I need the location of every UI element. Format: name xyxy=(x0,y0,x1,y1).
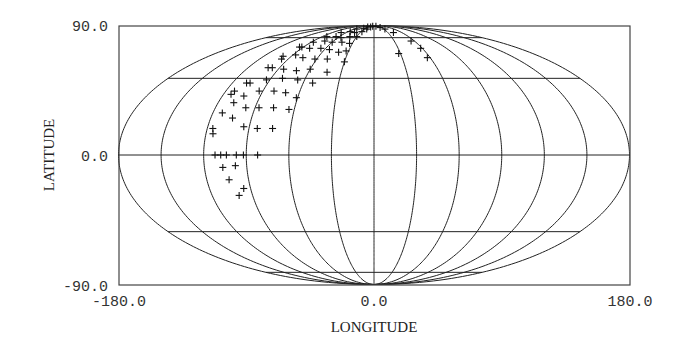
plus-marker xyxy=(338,39,345,46)
plus-marker xyxy=(232,162,239,169)
plus-marker xyxy=(209,130,216,137)
plus-marker xyxy=(306,45,313,52)
plus-marker xyxy=(254,152,261,159)
plus-marker xyxy=(240,185,247,192)
plus-marker xyxy=(242,104,249,111)
plus-marker xyxy=(254,125,261,132)
plus-marker xyxy=(226,176,233,183)
plus-marker xyxy=(231,88,238,95)
plus-marker xyxy=(229,115,236,122)
mollweide-scatter-chart: 90.0 0.0 -90.0 -180.0 0.0 180.0 LONGITUD… xyxy=(0,0,682,356)
plus-marker xyxy=(282,89,289,96)
plus-marker xyxy=(372,23,379,30)
plus-marker xyxy=(293,67,300,74)
plus-marker xyxy=(269,125,276,132)
plus-marker xyxy=(285,106,292,113)
plus-marker xyxy=(240,123,247,130)
x-axis-label: LONGITUDE xyxy=(331,319,418,335)
plus-marker xyxy=(424,54,431,61)
plus-marker xyxy=(263,76,270,83)
plus-marker xyxy=(417,45,424,52)
plus-marker xyxy=(223,152,230,159)
plus-marker xyxy=(343,47,350,54)
plus-marker xyxy=(292,51,299,58)
plus-marker xyxy=(333,33,340,40)
x-tick-mid: 0.0 xyxy=(360,294,387,311)
plus-marker xyxy=(240,93,247,100)
plus-marker xyxy=(219,109,226,116)
plus-marker xyxy=(299,54,306,61)
y-tick-mid: 0.0 xyxy=(81,149,108,166)
plus-marker xyxy=(269,64,276,71)
plus-marker xyxy=(270,104,277,111)
plus-marker xyxy=(309,80,316,87)
plus-marker xyxy=(294,76,301,83)
x-tick-right: 180.0 xyxy=(607,294,652,311)
plus-marker xyxy=(324,69,331,76)
plus-marker xyxy=(236,192,243,199)
plus-marker xyxy=(408,38,415,45)
plus-marker xyxy=(335,49,342,56)
plus-marker xyxy=(230,99,237,106)
y-tick-top: 90.0 xyxy=(72,19,108,36)
plus-marker xyxy=(307,66,314,73)
plus-marker xyxy=(324,56,331,63)
graticule xyxy=(119,26,631,285)
y-axis-label: LATITUDE xyxy=(41,119,57,191)
plus-marker xyxy=(279,75,286,82)
plus-marker xyxy=(219,164,226,171)
x-tick-left: -180.0 xyxy=(92,294,146,311)
plus-marker xyxy=(228,91,235,98)
plus-marker xyxy=(247,80,254,87)
plus-marker xyxy=(311,56,318,63)
plus-marker xyxy=(271,88,278,95)
plus-marker xyxy=(341,58,348,65)
plus-marker xyxy=(346,40,353,47)
plus-marker xyxy=(233,152,240,159)
data-points xyxy=(209,23,431,199)
